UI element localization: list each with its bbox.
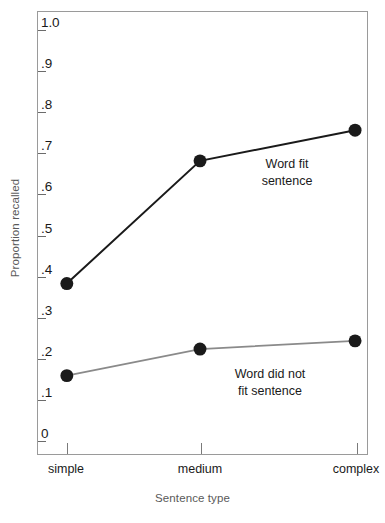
y-tick-mark — [38, 318, 46, 319]
y-tick-label: .3 — [41, 304, 52, 318]
y-tick-mark — [38, 359, 46, 360]
data-point — [60, 277, 73, 290]
x-tick-mark — [201, 443, 202, 454]
y-axis-title-container: Proportion recalled — [0, 0, 30, 455]
data-point — [194, 343, 207, 356]
y-axis-title: Proportion recalled — [9, 178, 21, 276]
y-tick-label: .7 — [41, 139, 52, 153]
y-tick-mark — [38, 30, 46, 31]
series-line-0 — [67, 130, 355, 283]
y-tick-mark — [38, 194, 46, 195]
data-point — [349, 334, 362, 347]
y-tick-label: .9 — [41, 57, 52, 71]
y-tick-mark — [38, 71, 46, 72]
y-tick-mark — [38, 400, 46, 401]
chart-figure: Proportion recalled 1.0.9.8.7.6.5.4.3.2.… — [0, 0, 385, 523]
y-tick-mark — [38, 112, 46, 113]
y-tick-mark — [38, 441, 46, 442]
y-tick-label: .5 — [41, 222, 52, 236]
y-tick-label: .8 — [41, 98, 52, 112]
y-tick-label: .6 — [41, 180, 52, 194]
y-tick-label: .1 — [41, 386, 52, 400]
y-tick-mark — [38, 236, 46, 237]
data-point — [349, 124, 362, 137]
x-tick-label-complex: complex — [333, 462, 380, 476]
y-tick-label: .2 — [41, 345, 52, 359]
x-tick-mark — [357, 443, 358, 454]
series-annotation-word-fit: Word fit sentence — [232, 156, 342, 190]
y-tick-mark — [38, 153, 46, 154]
x-tick-mark — [67, 443, 68, 454]
series-annotation-word-did-not-fit: Word did not fit sentence — [205, 366, 335, 400]
x-tick-label-simple: simple — [48, 462, 84, 476]
y-tick-label: 1.0 — [41, 16, 59, 30]
y-tick-label: .4 — [41, 263, 52, 277]
data-point — [194, 154, 207, 167]
y-tick-label: 0 — [41, 427, 48, 441]
x-tick-label-medium: medium — [178, 462, 222, 476]
x-axis-title: Sentence type — [0, 492, 385, 504]
data-point — [60, 369, 73, 382]
y-tick-mark — [38, 277, 46, 278]
